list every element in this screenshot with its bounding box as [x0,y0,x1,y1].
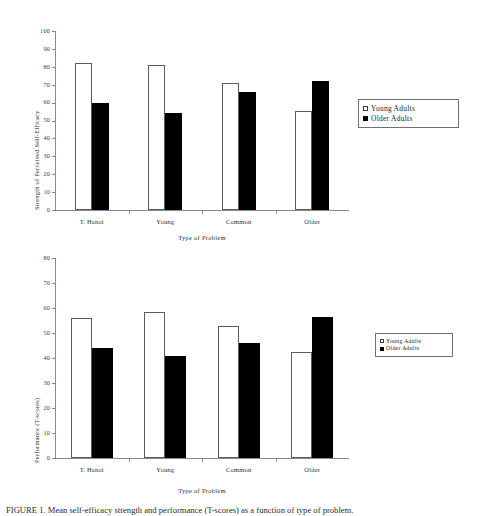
figure-caption: FIGURE 1. Mean self-efficacy strength an… [6,505,486,515]
x-axis-category-label: T. Hanoi [55,466,129,473]
x-axis-category-label: Common [202,466,276,473]
y-axis-tick [52,383,55,384]
y-axis-tick-label: 80 [29,64,50,70]
legend-item-young-adults: Young Adults [380,338,447,345]
x-axis-title-self-efficacy: Type of Problem [55,234,349,241]
x-axis-tick [129,211,130,214]
y-axis-tick [52,85,55,86]
y-axis-tick [52,31,55,32]
bar-performance-2-1 [239,343,260,458]
bar-self-efficacy-0-1 [92,103,109,210]
chart-performance: Performance (T-scores) 01020304050607080… [0,248,489,500]
plot-area-performance: 01020304050607080T. HanoiYoungCommonOlde… [0,248,489,500]
legend-swatch-older-adults-icon [363,116,368,121]
y-axis-tick [52,49,55,50]
y-axis-tick-label: 40 [29,355,50,361]
y-axis-tick-label: 100 [29,28,50,34]
legend-label-young-adults: Young Adults [371,104,415,113]
y-axis-tick [52,408,55,409]
x-axis-category-label: Young [129,218,203,225]
bar-self-efficacy-3-0 [295,111,312,210]
legend-swatch-young-adults-icon [380,339,384,343]
bar-performance-1-0 [144,312,165,458]
y-axis-tick-label: 90 [29,46,50,52]
y-axis-tick [52,358,55,359]
y-axis-tick-label: 80 [29,255,50,261]
y-axis-tick-label: 20 [29,171,50,177]
y-axis-tick [52,283,55,284]
bar-self-efficacy-1-1 [165,113,182,210]
y-axis-tick [52,67,55,68]
legend-label-young-adults: Young Adults [386,338,421,345]
x-axis-tick [202,211,203,214]
y-axis-tick [52,156,55,157]
x-axis-category-label: Common [202,218,276,225]
y-axis-line [55,31,56,210]
bar-self-efficacy-2-0 [222,83,239,210]
legend-swatch-older-adults-icon [380,347,384,351]
y-axis-tick [52,192,55,193]
legend-item-older-adults: Older Adults [363,114,453,123]
figure-container: Strength of Perceived Self-Efficacy 0102… [0,0,489,516]
bar-performance-0-0 [71,318,92,458]
x-axis-category-label: Young [129,466,203,473]
y-axis-line [55,258,56,458]
x-axis-tick [276,211,277,214]
y-axis-tick-label: 60 [29,99,50,105]
y-axis-tick-label: 10 [29,189,50,195]
y-axis-tick-label: 10 [29,430,50,436]
x-axis-category-label: Older [276,466,350,473]
bar-performance-2-0 [218,326,239,459]
legend-performance: Young Adults Older Adults [375,333,453,357]
y-axis-tick [52,174,55,175]
y-axis-tick [52,433,55,434]
legend-label-older-adults: Older Adults [386,345,419,352]
y-axis-tick [52,103,55,104]
y-axis-tick-label: 30 [29,153,50,159]
bar-self-efficacy-0-0 [75,63,92,210]
y-axis-tick-label: 60 [29,305,50,311]
y-axis-tick [52,333,55,334]
bar-performance-1-1 [165,356,186,459]
bar-self-efficacy-2-1 [239,92,256,210]
y-axis-tick [52,458,55,459]
y-axis-tick-label: 50 [29,330,50,336]
legend-self-efficacy: Young Adults Older Adults [358,99,459,128]
legend-item-older-adults: Older Adults [380,345,447,352]
x-axis-tick [202,459,203,462]
legend-item-young-adults: Young Adults [363,104,453,113]
bar-performance-3-1 [312,317,333,458]
x-axis-tick [276,459,277,462]
y-axis-tick-label: 70 [29,82,50,88]
y-axis-tick [52,138,55,139]
bar-performance-0-1 [92,348,113,458]
y-axis-tick [52,308,55,309]
bar-self-efficacy-3-1 [312,81,329,210]
chart-self-efficacy: Strength of Perceived Self-Efficacy 0102… [0,0,489,248]
bar-self-efficacy-1-0 [148,65,165,210]
x-axis-title-performance: Type of Problem [55,487,349,494]
y-axis-tick-label: 30 [29,380,50,386]
bar-performance-3-0 [291,352,312,458]
x-axis-category-label: T. Hanoi [55,218,129,225]
y-axis-tick-label: 50 [29,117,50,123]
y-axis-tick-label: 40 [29,135,50,141]
y-axis-tick-label: 70 [29,280,50,286]
legend-label-older-adults: Older Adults [371,114,413,123]
y-axis-tick-label: 0 [29,455,50,461]
x-axis-tick [129,459,130,462]
y-axis-tick [52,210,55,211]
legend-swatch-young-adults-icon [363,106,368,111]
y-axis-tick [52,258,55,259]
y-axis-tick-label: 20 [29,405,50,411]
y-axis-tick [52,121,55,122]
x-axis-category-label: Older [276,218,350,225]
y-axis-tick-label: 0 [29,207,50,213]
